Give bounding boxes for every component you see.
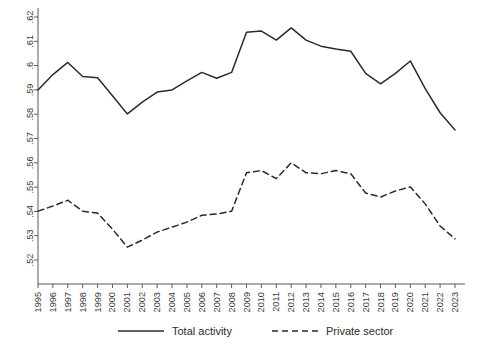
- x-tick-label: 2010: [256, 292, 266, 312]
- x-axis: 1995199619971998199920002001200220032004…: [33, 284, 465, 312]
- y-tick-label: .62: [25, 11, 35, 24]
- x-tick-label: 1996: [48, 292, 58, 312]
- x-tick-label: 1998: [78, 292, 88, 312]
- y-tick-label: .53: [25, 229, 35, 242]
- x-tick-label: 2001: [122, 292, 132, 312]
- x-tick-label: 2022: [435, 292, 445, 312]
- y-tick-label: .61: [25, 35, 35, 48]
- x-tick-label: 2013: [301, 292, 311, 312]
- x-tick-label: 2003: [152, 292, 162, 312]
- series-line-2: [38, 163, 455, 247]
- y-tick-label: .58: [25, 108, 35, 121]
- y-tick-label: .54: [25, 205, 35, 218]
- x-tick-label: 2017: [361, 292, 371, 312]
- x-tick-label: 2021: [420, 292, 430, 312]
- x-tick-label: 2014: [316, 292, 326, 312]
- x-tick-label: 2005: [182, 292, 192, 312]
- y-axis: .52.53.54.55.56.57.58.59.6.61.62: [25, 8, 38, 284]
- x-tick-label: 1997: [63, 292, 73, 312]
- x-tick-label: 2012: [286, 292, 296, 312]
- x-tick-label: 2019: [390, 292, 400, 312]
- data-series-group: [38, 28, 455, 247]
- x-tick-label: 2016: [346, 292, 356, 312]
- y-tick-label: .6: [25, 62, 35, 70]
- chart-canvas: .52.53.54.55.56.57.58.59.6.61.62 1995199…: [0, 0, 479, 345]
- line-chart: .52.53.54.55.56.57.58.59.6.61.62 1995199…: [0, 0, 479, 345]
- y-tick-label: .56: [25, 156, 35, 169]
- x-tick-label: 2007: [212, 292, 222, 312]
- y-tick-label: .57: [25, 132, 35, 145]
- x-tick-label: 1995: [33, 292, 43, 312]
- x-tick-label: 2020: [405, 292, 415, 312]
- x-tick-label: 2006: [197, 292, 207, 312]
- x-tick-label: 2018: [376, 292, 386, 312]
- legend-label-2: Private sector: [326, 325, 394, 337]
- x-tick-label: 2015: [331, 292, 341, 312]
- chart-legend: Total activityPrivate sector: [118, 325, 394, 337]
- legend-label-1: Total activity: [172, 325, 232, 337]
- x-tick-label: 2011: [271, 292, 281, 312]
- x-tick-label: 2000: [107, 292, 117, 312]
- x-tick-label: 2002: [137, 292, 147, 312]
- series-line-1: [38, 28, 455, 130]
- x-tick-label: 2008: [227, 292, 237, 312]
- y-tick-label: .52: [25, 254, 35, 267]
- x-tick-label: 1999: [93, 292, 103, 312]
- x-tick-label: 2004: [167, 292, 177, 312]
- y-tick-label: .55: [25, 181, 35, 194]
- x-tick-label: 2023: [450, 292, 460, 312]
- y-tick-label: .59: [25, 84, 35, 97]
- x-tick-label: 2009: [242, 292, 252, 312]
